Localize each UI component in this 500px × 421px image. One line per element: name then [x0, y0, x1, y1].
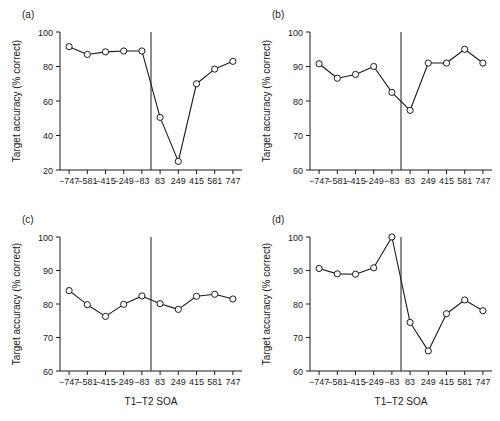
y-tick-label-c: 70 [43, 333, 53, 343]
x-tick-label-a: −83 [134, 176, 149, 186]
data-point-marker [157, 301, 163, 307]
y-tick-label-c: 80 [43, 300, 53, 310]
x-tick-label-d: 415 [439, 377, 454, 387]
data-point-marker [462, 297, 468, 303]
x-tick-label-b: −249 [364, 176, 384, 186]
panel-letter-b: (b) [272, 9, 284, 20]
x-tick-label-d: 581 [457, 377, 472, 387]
x-tick-label-a: 747 [225, 176, 240, 186]
data-point-marker [389, 234, 395, 240]
data-point-marker [230, 58, 236, 64]
x-tick-label-a: 581 [207, 176, 222, 186]
data-point-marker [334, 271, 340, 277]
y-tick-label-d: 90 [293, 266, 303, 276]
x-tick-label-c: −249 [114, 377, 134, 387]
x-tick-label-a: −249 [114, 176, 134, 186]
data-point-marker [139, 293, 145, 299]
chart-svg-b: (b)60708090100−747−581−415−249−838324941… [250, 0, 500, 210]
data-point-marker [212, 66, 218, 72]
data-point-marker [175, 158, 181, 164]
data-point-marker [371, 265, 377, 271]
data-point-marker [84, 302, 90, 308]
y-tick-label-d: 70 [293, 333, 303, 343]
figure-panel-grid: (a)20406080100−747−581−415−249−838324941… [0, 0, 500, 421]
data-point-marker [316, 265, 322, 271]
data-point-marker [84, 51, 90, 57]
data-point-marker [175, 306, 181, 312]
data-point-marker [212, 291, 218, 297]
data-point-marker [425, 60, 431, 66]
x-tick-label-c: 581 [207, 377, 222, 387]
y-tick-label-c: 60 [43, 367, 53, 377]
x-tick-label-c: −83 [134, 377, 149, 387]
y-tick-label-b: 90 [293, 62, 303, 72]
data-point-marker [121, 301, 127, 307]
x-tick-label-a: 415 [189, 176, 204, 186]
y-tick-label-b: 80 [293, 97, 303, 107]
data-point-marker [334, 75, 340, 81]
x-axis-title-c: T1–T2 SOA [125, 396, 178, 407]
y-axis-title-b: Target accuracy (% correct) [261, 40, 272, 162]
panel-letter-a: (a) [22, 9, 34, 20]
data-point-marker [193, 81, 199, 87]
y-tick-label-a: 20 [43, 166, 53, 176]
chart-panel-a: (a)20406080100−747−581−415−249−838324941… [0, 0, 250, 210]
data-point-marker [66, 288, 72, 294]
chart-svg-d: (d)60708090100−747−581−415−249−838324941… [250, 205, 500, 421]
y-tick-label-c: 90 [43, 266, 53, 276]
x-tick-label-c: 747 [225, 377, 240, 387]
chart-svg-c: (c)60708090100−747−581−415−249−838324941… [0, 205, 250, 421]
data-point-marker [407, 107, 413, 113]
y-tick-label-d: 60 [293, 367, 303, 377]
y-tick-label-a: 60 [43, 97, 53, 107]
x-tick-label-b: 415 [439, 176, 454, 186]
x-tick-label-d: 83 [405, 377, 415, 387]
y-tick-label-b: 100 [288, 28, 303, 38]
data-point-marker [121, 48, 127, 54]
data-point-marker [462, 46, 468, 52]
data-point-marker [316, 61, 322, 67]
x-tick-label-c: 415 [189, 377, 204, 387]
y-tick-label-a: 80 [43, 62, 53, 72]
data-point-marker [371, 63, 377, 69]
x-tick-label-b: −83 [384, 176, 399, 186]
x-tick-label-d: 249 [421, 377, 436, 387]
data-point-marker [480, 308, 486, 314]
y-axis-title-d: Target accuracy (% correct) [261, 243, 272, 365]
x-tick-label-b: 581 [457, 176, 472, 186]
x-axis-title-d: T1–T2 SOA [375, 396, 428, 407]
data-point-marker [102, 313, 108, 319]
data-point-marker [139, 48, 145, 54]
chart-panel-c: (c)60708090100−747−581−415−249−838324941… [0, 205, 250, 421]
y-tick-label-a: 100 [38, 28, 53, 38]
chart-panel-b: (b)60708090100−747−581−415−249−838324941… [250, 0, 500, 210]
x-tick-label-c: 249 [171, 377, 186, 387]
y-axis-title-c: Target accuracy (% correct) [11, 243, 22, 365]
x-tick-label-c: 83 [155, 377, 165, 387]
panel-letter-d: (d) [272, 214, 284, 225]
y-tick-label-b: 70 [293, 131, 303, 141]
y-tick-label-d: 80 [293, 300, 303, 310]
data-point-marker [443, 311, 449, 317]
data-point-marker [352, 271, 358, 277]
data-point-marker [352, 71, 358, 77]
x-tick-label-b: 83 [405, 176, 415, 186]
x-tick-label-d: 747 [475, 377, 490, 387]
y-tick-label-c: 100 [38, 233, 53, 243]
data-point-marker [66, 44, 72, 50]
x-tick-label-b: 747 [475, 176, 490, 186]
y-axis-title-a: Target accuracy (% correct) [11, 40, 22, 162]
x-tick-label-d: −83 [384, 377, 399, 387]
y-tick-label-b: 60 [293, 166, 303, 176]
y-tick-label-a: 40 [43, 131, 53, 141]
chart-panel-d: (d)60708090100−747−581−415−249−838324941… [250, 205, 500, 421]
panel-letter-c: (c) [22, 214, 34, 225]
y-tick-label-d: 100 [288, 233, 303, 243]
x-tick-label-d: −249 [364, 377, 384, 387]
data-point-marker [443, 60, 449, 66]
x-tick-label-b: 249 [421, 176, 436, 186]
chart-svg-a: (a)20406080100−747−581−415−249−838324941… [0, 0, 250, 210]
data-point-marker [102, 49, 108, 55]
data-point-marker [425, 348, 431, 354]
data-point-marker [157, 114, 163, 120]
